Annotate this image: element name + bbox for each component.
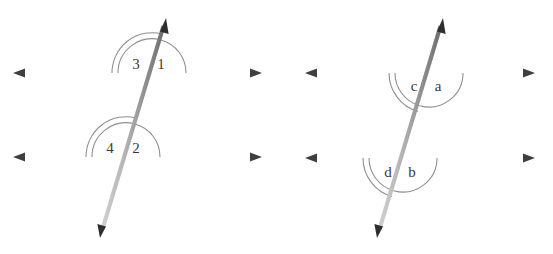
diagram-canvas: 3 1 4 2 — [0, 0, 553, 254]
angle-label-3: 3 — [132, 56, 140, 72]
arrow-left-icon — [13, 153, 25, 162]
angle-label-c: c — [411, 78, 418, 94]
arrow-left-icon — [13, 69, 25, 78]
angle-label-d: d — [384, 164, 392, 180]
lower-parallel-line-right — [305, 154, 535, 163]
figure-left: 3 1 4 2 — [13, 18, 262, 238]
arrow-up-icon — [160, 18, 169, 34]
angle-label-b: b — [408, 164, 416, 180]
angle-label-2: 2 — [132, 140, 140, 156]
arrow-right-icon — [523, 69, 535, 78]
arrow-left-icon — [305, 69, 317, 78]
upper-parallel-line-right — [305, 69, 535, 78]
arrow-left-icon — [305, 154, 317, 163]
arrow-up-icon — [437, 18, 446, 34]
angle-label-1: 1 — [157, 56, 165, 72]
arrow-right-icon — [250, 153, 262, 162]
angle-1-arc-1 — [161, 40, 186, 73]
arrow-right-icon — [523, 154, 535, 163]
arrow-right-icon — [250, 69, 262, 78]
transversal-right — [374, 18, 445, 238]
angle-label-a: a — [435, 78, 442, 94]
figure-right: c a d b — [305, 18, 535, 238]
geometry-diagram-svg: 3 1 4 2 — [0, 0, 553, 254]
angle-arc-group-bottom-left — [86, 117, 160, 157]
angle-label-4: 4 — [106, 140, 114, 156]
